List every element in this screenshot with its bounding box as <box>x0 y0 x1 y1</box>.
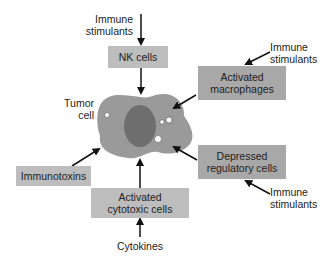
depressed-regulatory-cells-box: Depressed regulatory cells <box>198 145 286 179</box>
arrow-stim-to-regulatory <box>246 181 270 194</box>
nk-cells-box: NK cells <box>108 46 168 68</box>
activated-macrophages-box: Activated macrophages <box>198 66 286 100</box>
right-top-immune-stimulants-label: Immune stimulants <box>270 41 317 65</box>
tumor-nucleus <box>124 105 156 147</box>
activated-cytotoxic-cells-box: Activated cytotoxic cells <box>91 188 189 218</box>
cytokines-label: Cytokines <box>114 240 166 252</box>
arrow-stim-to-macrophages <box>246 52 270 64</box>
right-bottom-immune-stimulants-label: Immune stimulants <box>270 186 317 210</box>
top-immune-stimulants-label: Immune stimulants <box>85 13 133 37</box>
tumor-cell-label: Tumor cell <box>62 97 94 121</box>
immunotoxins-box: Immunotoxins <box>16 166 91 186</box>
arrow-immunotoxins-to-cell <box>72 149 99 166</box>
arrow-regulatory-to-cell <box>174 147 197 160</box>
